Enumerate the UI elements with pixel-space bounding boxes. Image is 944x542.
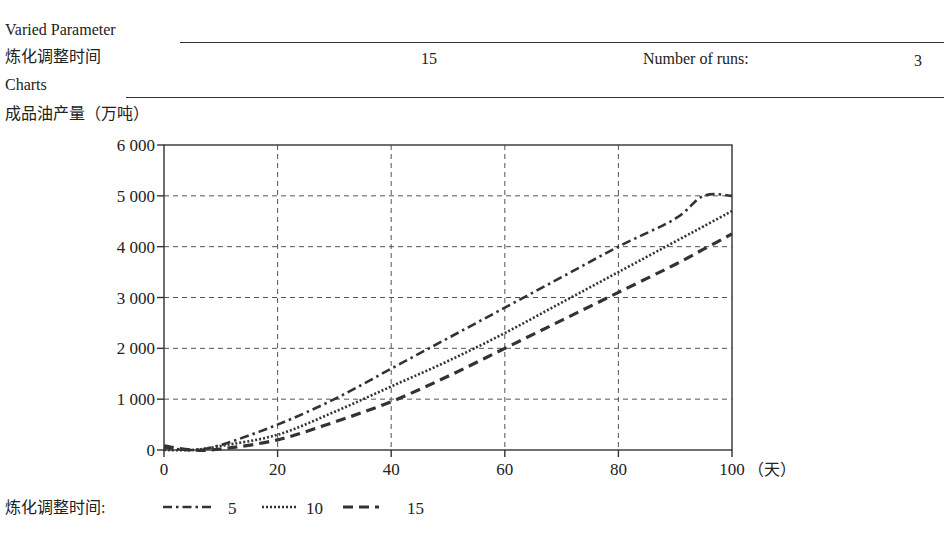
line-chart: 01 0002 0003 0004 0005 0006 000020406080… bbox=[0, 0, 944, 542]
legend-title: 炼化调整时间: bbox=[5, 499, 105, 516]
chart-series bbox=[164, 194, 732, 450]
x-axis-unit: （天） bbox=[748, 461, 796, 478]
chart-legend: 炼化调整时间:51015 bbox=[5, 499, 424, 518]
legend-label-15: 15 bbox=[407, 499, 424, 518]
y-tick-label: 0 bbox=[147, 441, 156, 460]
x-tick-label: 100 bbox=[719, 460, 745, 479]
y-tick-label: 1 000 bbox=[117, 390, 155, 409]
series-line-5 bbox=[164, 194, 732, 450]
x-tick-label: 40 bbox=[383, 460, 400, 479]
y-tick-label: 4 000 bbox=[117, 238, 155, 257]
chart-axes: 01 0002 0003 0004 0005 0006 000020406080… bbox=[117, 136, 796, 479]
y-tick-label: 3 000 bbox=[117, 289, 155, 308]
x-tick-label: 0 bbox=[160, 460, 169, 479]
chart-grid bbox=[164, 145, 732, 450]
legend-label-5: 5 bbox=[228, 499, 237, 518]
y-tick-label: 5 000 bbox=[117, 187, 155, 206]
x-tick-label: 80 bbox=[610, 460, 627, 479]
y-tick-label: 6 000 bbox=[117, 136, 155, 155]
y-tick-label: 2 000 bbox=[117, 339, 155, 358]
x-tick-label: 20 bbox=[269, 460, 286, 479]
series-line-15 bbox=[164, 234, 732, 450]
legend-label-10: 10 bbox=[306, 499, 323, 518]
x-tick-label: 60 bbox=[496, 460, 513, 479]
